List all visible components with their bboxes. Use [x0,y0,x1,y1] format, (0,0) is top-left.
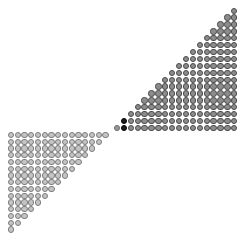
dot [210,56,216,62]
dot [210,125,216,131]
dot [217,97,223,103]
dot [204,42,210,48]
dot [135,118,141,124]
dot [48,179,54,185]
dot [231,35,237,41]
dot [148,125,154,131]
dot [15,193,21,199]
dot [15,206,21,212]
dot [155,125,161,131]
dot [135,111,141,117]
dot [217,35,223,41]
dot [15,159,21,165]
dot [62,172,68,178]
dot [224,28,230,34]
dot [162,83,168,89]
dot [62,152,68,158]
dot [210,28,216,34]
dot [15,186,21,192]
dot [204,77,210,83]
dot [204,111,210,117]
dot [21,186,27,192]
dot [62,145,68,151]
dot [217,56,223,62]
dot [135,125,141,131]
dot [141,104,147,110]
dot [204,56,210,62]
dot [21,159,27,165]
dot [8,206,14,212]
dot [21,199,27,205]
dot [8,145,14,151]
dot [210,70,216,76]
dot [69,139,75,145]
dot [15,132,21,138]
dot [204,49,210,55]
dot [183,90,189,96]
dot [75,159,81,165]
dot [155,97,161,103]
dot [48,132,54,138]
dot [204,70,210,76]
dot [8,172,14,178]
dot [176,111,182,117]
origin-dot [114,125,120,131]
dot [42,152,48,158]
dot [8,152,14,158]
dot [15,179,21,185]
dot [183,63,189,69]
dot [48,139,54,145]
dot [15,145,21,151]
dot [8,166,14,172]
dot [82,139,88,145]
dot [128,125,134,131]
dot [82,152,88,158]
dot [224,35,230,41]
dot [28,152,34,158]
dot [183,104,189,110]
dot [231,49,237,55]
dot [190,49,196,55]
dot [35,139,41,145]
dot [8,159,14,165]
dot [210,35,216,41]
dot [28,206,34,212]
dot [169,118,175,124]
dot [224,125,230,131]
dot [231,111,237,117]
dot [162,90,168,96]
dot [148,97,154,103]
dot [8,226,14,232]
dot [69,132,75,138]
dot [231,125,237,131]
dot [190,125,196,131]
dot [204,118,210,124]
dot [21,172,27,178]
dot [231,77,237,83]
dot [169,104,175,110]
dot [141,125,147,131]
dot [28,159,34,165]
dot [231,83,237,89]
dot [96,132,102,138]
dot [224,118,230,124]
dot [155,90,161,96]
dot [190,104,196,110]
dot [8,193,14,199]
dot [176,83,182,89]
dot [224,83,230,89]
dot [62,159,68,165]
dot [231,90,237,96]
dot [217,63,223,69]
dot [35,132,41,138]
highlighted-dot [121,118,127,124]
dot [48,166,54,172]
dot [162,77,168,83]
dot [21,145,27,151]
dot [35,199,41,205]
dot [35,166,41,172]
dot [21,206,27,212]
dot [35,152,41,158]
dot [15,199,21,205]
dot [62,132,68,138]
